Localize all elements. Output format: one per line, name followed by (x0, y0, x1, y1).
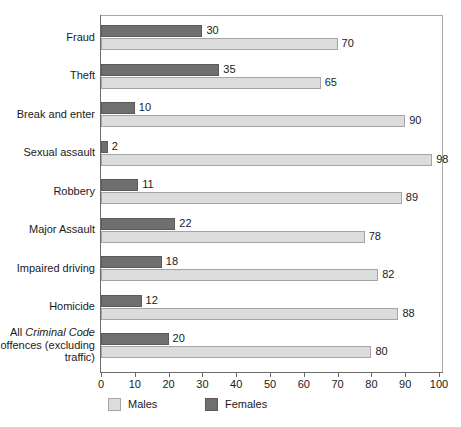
bar-females[interactable] (101, 141, 108, 153)
x-axis-tick-label: 70 (323, 378, 353, 391)
bar-females[interactable] (101, 25, 202, 37)
legend-label-females: Females (225, 398, 267, 411)
x-axis-tick-mark (270, 373, 271, 377)
bar-females[interactable] (101, 256, 162, 268)
x-axis-tick-mark (202, 373, 203, 377)
category-label: All Criminal Codeoffences (excludingtraf… (0, 326, 95, 364)
x-axis-tick-mark (169, 373, 170, 377)
bar-group: 1288 (101, 288, 443, 326)
bar-females[interactable] (101, 333, 169, 345)
bar-value-females: 30 (206, 24, 218, 36)
bar-value-females: 11 (142, 178, 153, 190)
chart-row: Theft3565 (0, 57, 461, 95)
bar-females[interactable] (101, 179, 138, 191)
bar-males[interactable] (101, 38, 338, 50)
x-axis-tick-label: 80 (356, 378, 386, 391)
x-axis-tick-label: 10 (120, 378, 150, 391)
x-axis-tick-label: 60 (289, 378, 319, 391)
bar-males[interactable] (101, 231, 365, 243)
bar-group: 2278 (101, 211, 443, 249)
bar-value-males: 98 (436, 153, 448, 165)
chart-row: Robbery1189 (0, 172, 461, 210)
legend-item-females[interactable]: Females (205, 396, 267, 412)
legend-swatch-females-icon (205, 398, 218, 411)
bar-males[interactable] (101, 269, 378, 281)
bar-chart: Fraud3070Theft3565Break and enter1090Sex… (0, 0, 461, 427)
category-label: Fraud (0, 31, 95, 44)
chart-row: Impaired driving1882 (0, 249, 461, 287)
legend-swatch-males-icon (108, 398, 121, 411)
bar-value-males: 88 (402, 307, 414, 319)
x-axis-tick-label: 50 (255, 378, 285, 391)
chart-row: Homicide1288 (0, 288, 461, 326)
bar-males[interactable] (101, 346, 371, 358)
bar-group: 3070 (101, 18, 443, 56)
x-axis-tick-label: 90 (390, 378, 420, 391)
bar-value-males: 90 (409, 114, 421, 126)
bar-value-females: 2 (112, 140, 118, 152)
bar-value-females: 12 (146, 294, 158, 306)
chart-row: Fraud3070 (0, 18, 461, 56)
category-label: Homicide (0, 300, 95, 313)
x-axis-ticks: 0102030405060708090100 (100, 373, 443, 395)
legend-item-males[interactable]: Males (108, 396, 157, 412)
bar-value-males: 80 (375, 345, 387, 357)
x-axis-tick-label: 100 (424, 378, 454, 391)
chart-row: Break and enter1090 (0, 95, 461, 133)
bar-group: 3565 (101, 57, 443, 95)
x-axis-tick-mark (236, 373, 237, 377)
x-axis-tick-label: 0 (86, 378, 116, 391)
bar-value-males: 78 (369, 230, 381, 242)
category-label: Break and enter (0, 108, 95, 121)
category-label: Sexual assault (0, 146, 95, 159)
bar-value-females: 35 (223, 63, 235, 75)
legend-label-males: Males (128, 398, 157, 411)
bar-group: 298 (101, 134, 443, 172)
x-axis-tick-mark (101, 373, 102, 377)
chart-row: All Criminal Codeoffences (excludingtraf… (0, 326, 461, 364)
x-axis-tick-mark (405, 373, 406, 377)
chart-legend: Males Females (0, 396, 461, 416)
bar-group: 1189 (101, 172, 443, 210)
x-axis-tick-mark (439, 373, 440, 377)
chart-row: Major Assault2278 (0, 211, 461, 249)
x-axis-tick-mark (304, 373, 305, 377)
bar-females[interactable] (101, 218, 175, 230)
x-axis-tick-label: 40 (221, 378, 251, 391)
chart-row: Sexual assault298 (0, 134, 461, 172)
bar-group: 1090 (101, 95, 443, 133)
category-label: Impaired driving (0, 262, 95, 275)
bar-value-males: 65 (325, 76, 337, 88)
x-axis-tick-mark (371, 373, 372, 377)
x-axis-tick-mark (338, 373, 339, 377)
bar-males[interactable] (101, 192, 402, 204)
bar-males[interactable] (101, 308, 398, 320)
bar-group: 2080 (101, 326, 443, 364)
bar-group: 1882 (101, 249, 443, 287)
x-axis-tick-label: 30 (187, 378, 217, 391)
category-label: Major Assault (0, 223, 95, 236)
bar-value-males: 82 (382, 268, 394, 280)
bar-value-females: 18 (166, 255, 178, 267)
x-axis-tick-mark (135, 373, 136, 377)
bar-males[interactable] (101, 115, 405, 127)
category-label: Robbery (0, 185, 95, 198)
bar-females[interactable] (101, 102, 135, 114)
bar-females[interactable] (101, 64, 219, 76)
bar-males[interactable] (101, 77, 321, 89)
bar-value-males: 70 (342, 37, 354, 49)
category-label: Theft (0, 69, 95, 82)
bar-males[interactable] (101, 154, 432, 166)
bar-females[interactable] (101, 295, 142, 307)
bar-value-females: 20 (173, 332, 185, 344)
bar-value-males: 89 (406, 191, 418, 203)
bar-value-females: 10 (139, 101, 151, 113)
x-axis-tick-label: 20 (154, 378, 184, 391)
bar-value-females: 22 (179, 217, 191, 229)
